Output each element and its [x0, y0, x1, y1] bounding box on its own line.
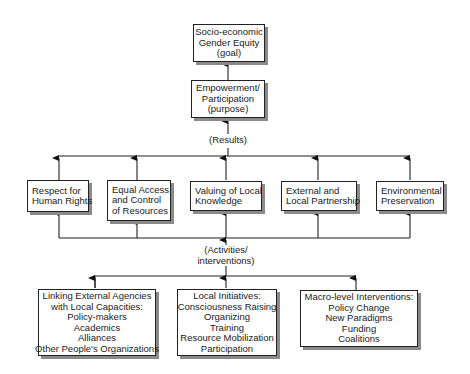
activity-line: Participation [201, 344, 253, 355]
result-box-environment: Environmental Preservation [376, 181, 444, 211]
activity-box-linking: Linking External Agencies with Local Cap… [38, 289, 156, 356]
goal-line-3: (goal) [217, 48, 241, 59]
result-line: Knowledge [195, 196, 261, 207]
result-box-human-rights: Respect for Human Rights [27, 180, 89, 212]
activity-line: Other People's Organizations [35, 344, 159, 355]
activity-line: Linking External Agencies [43, 291, 152, 302]
activity-line: Organizing [204, 312, 250, 323]
activity-line: Coalitions [338, 334, 380, 345]
activity-line: Local Initiatives: [193, 291, 261, 302]
activities-label-line: interventions) [196, 256, 256, 267]
result-line: Local Partnership [286, 196, 356, 207]
result-box-local-knowledge: Valuing of Local Knowledge [190, 181, 262, 211]
purpose-line-3: (purpose) [208, 104, 249, 115]
activity-box-local-initiatives: Local Initiatives: Consciousness Raising… [177, 289, 277, 356]
result-line: of Resources [112, 206, 170, 217]
activities-label: (Activities/ interventions) [196, 245, 256, 266]
goal-box: Socio-economic Gender Equity (goal) [193, 24, 265, 62]
result-line: Preservation [381, 196, 443, 207]
activities-label-line: (Activities/ [196, 245, 256, 256]
result-box-partnership: External and Local Partnership [281, 181, 357, 211]
activity-line: Resource Mobilization [180, 333, 273, 344]
activity-line: Policy-makers [67, 312, 127, 323]
purpose-box: Empowerment/ Participation (purpose) [191, 80, 265, 118]
result-box-equal-access: Equal Access and Control of Resources [107, 180, 171, 221]
activity-box-macro: Macro-level Interventions: Policy Change… [300, 290, 418, 347]
results-label: (Results) [203, 135, 253, 146]
result-line: Human Rights [32, 196, 88, 207]
activity-line: Alliances [78, 333, 116, 344]
